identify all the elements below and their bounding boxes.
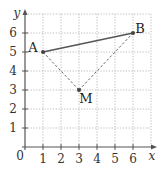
x-tick-labels: 1 2 3 4 5 6 [39,152,137,166]
point-m-label: M [79,91,92,106]
segment-mb [79,33,133,90]
x-axis-label: x [149,149,156,163]
y-tick-labels: 1 2 3 4 5 6 [9,26,17,135]
point-a-label: A [27,40,38,55]
svg-text:4: 4 [9,64,17,78]
svg-text:3: 3 [9,83,17,97]
segment-ab [43,33,133,52]
point-b-label: B [135,21,145,36]
y-axis-arrow-icon [23,9,28,15]
svg-text:3: 3 [75,152,83,166]
svg-text:2: 2 [9,102,17,116]
svg-text:4: 4 [93,152,101,166]
svg-text:5: 5 [9,45,17,59]
svg-text:6: 6 [9,26,17,40]
y-axis-label: y [13,6,21,20]
coordinate-diagram: 1 2 3 4 5 6 1 2 3 4 5 6 0 x y A B M [0,0,161,170]
origin-label: 0 [16,149,24,163]
svg-text:5: 5 [111,152,119,166]
svg-text:6: 6 [129,152,137,166]
svg-text:2: 2 [57,152,65,166]
svg-text:1: 1 [9,121,17,135]
svg-text:1: 1 [39,152,47,166]
point-a [41,50,45,54]
